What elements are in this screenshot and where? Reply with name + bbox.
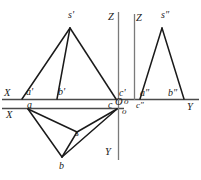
label-front-b: b' xyxy=(58,87,65,97)
label-axis-y-right: Y xyxy=(187,102,193,113)
label-axis-z-left: Z xyxy=(108,12,114,23)
top-edge-c-s xyxy=(77,109,117,132)
top-view-group xyxy=(28,109,117,157)
label-top-a: a xyxy=(27,100,32,110)
label-top-s: s xyxy=(75,128,79,138)
label-top-c: c xyxy=(108,100,112,110)
label-top-b: b xyxy=(59,161,64,171)
label-side-a: a″ xyxy=(140,88,149,98)
front-edge-s-c xyxy=(70,28,116,99)
label-axis-x-lower: X xyxy=(6,110,12,121)
projection-drawing-canvas: s' a' b' c' s″ a″ b″ c″ a c s b O o o X … xyxy=(0,0,201,180)
front-view-group xyxy=(22,28,116,99)
label-axis-y-bottom: Y xyxy=(105,147,111,158)
label-axis-x-upper: X xyxy=(4,88,10,99)
label-axis-z-right: Z xyxy=(136,13,142,24)
label-side-apex: s″ xyxy=(161,10,169,20)
label-side-b: b″ xyxy=(168,88,177,98)
label-front-a: a' xyxy=(26,87,33,97)
label-front-apex: s' xyxy=(68,10,74,20)
label-side-c: c″ xyxy=(136,101,144,110)
label-origin-mid: o xyxy=(124,97,129,106)
label-origin-bottom: o xyxy=(122,107,127,116)
